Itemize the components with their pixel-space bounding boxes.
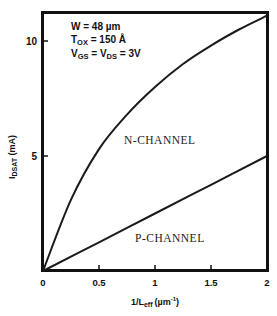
parameter-annotations: W = 48 µm TOX = 150 Å VGS = VDS = 3V bbox=[71, 21, 141, 61]
n-channel-label: N-CHANNEL bbox=[124, 134, 196, 146]
p-channel-label: P-CHANNEL bbox=[135, 232, 205, 244]
y-tick-label-10: 10 bbox=[26, 36, 38, 47]
x-axis-title: 1/Leff(µm-1) bbox=[131, 296, 179, 308]
y-tick-label-5: 5 bbox=[31, 151, 37, 162]
annotation-width: W = 48 µm bbox=[71, 21, 120, 32]
annotation-voltages: VGS = VDS = 3V bbox=[71, 48, 141, 61]
y-axis-title: IDSAT (mA) bbox=[7, 135, 18, 179]
x-tick-label-0: 0 bbox=[40, 277, 45, 288]
x-tick-label-0.5: 0.5 bbox=[92, 277, 106, 288]
p-channel-curve bbox=[43, 156, 267, 271]
x-tick-label-2: 2 bbox=[264, 277, 269, 288]
annotation-tox: TOX = 150 Å bbox=[71, 33, 126, 47]
x-tick-label-1: 1 bbox=[152, 277, 158, 288]
x-tick-label-1.5: 1.5 bbox=[204, 277, 218, 288]
chart: 10 5 0 0.5 1 1.5 2 1/Leff(µm-1) IDSAT (m… bbox=[0, 0, 277, 316]
